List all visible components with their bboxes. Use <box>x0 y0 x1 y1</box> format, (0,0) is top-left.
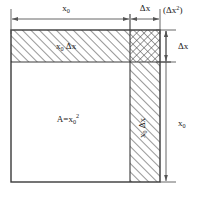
label-top-delta-x: Δx <box>140 3 151 13</box>
label-top-band-area: x0 Δx <box>56 41 77 52</box>
region-corner-square <box>130 30 160 62</box>
label-side-strip-area: x0 Δx <box>137 117 148 138</box>
label-right-delta-x: Δx <box>178 41 189 51</box>
label-main-area: A=x02 <box>57 112 79 126</box>
area-differential-diagram: x0 Δx (Δx2) Δx x0 x0 Δx x0 Δx A=x02 <box>0 0 197 201</box>
label-corner-square-note: (Δx2) <box>163 4 182 15</box>
region-fills <box>11 30 160 182</box>
figure-container: x0 Δx (Δx2) Δx x0 x0 Δx x0 Δx A=x02 <box>0 0 197 201</box>
